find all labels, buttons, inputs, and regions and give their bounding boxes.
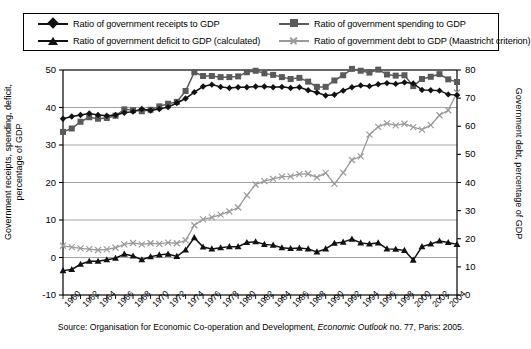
y-tick-left: 10: [30, 214, 56, 225]
y-tick-left: 50: [30, 64, 56, 75]
y-axis-title-right: Government debt, percentage of GDP: [513, 74, 524, 254]
series-diamond: [60, 79, 460, 122]
y-tick-left: 0: [30, 252, 56, 263]
y-tick-right: 0: [465, 289, 491, 300]
plot-area: Government receipts, spending, deficit, …: [0, 55, 522, 310]
source-note: Source: Organisation for Economic Co-ope…: [0, 322, 522, 332]
series-triangle: [60, 234, 461, 273]
legend-item-deficit: Ratio of government deficit to GDP (calc…: [38, 33, 260, 49]
y-tick-right: 20: [465, 233, 491, 244]
y-tick-left: -10: [30, 289, 56, 300]
y-tick-right: 30: [465, 205, 491, 216]
legend-label-debt: Ratio of government debt to GDP (Maastri…: [314, 35, 531, 47]
chart-legend: Ratio of government receipts to GDP Rati…: [23, 13, 499, 51]
legend-row-1: Ratio of government receipts to GDP Rati…: [24, 16, 498, 32]
y-tick-right: 40: [465, 177, 491, 188]
source-suffix: no. 77, Paris: 2005.: [387, 322, 464, 332]
legend-item-debt: Ratio of government debt to GDP (Maastri…: [279, 33, 531, 49]
source-italic: Economic Outlook: [318, 322, 388, 332]
legend-label-receipts: Ratio of government receipts to GDP: [73, 18, 220, 30]
y-axis-title-left: Government receipts, spending, deficit, …: [3, 72, 25, 252]
y-tick-right: 50: [465, 148, 491, 159]
y-tick-right: 60: [465, 120, 491, 131]
y-tick-right: 80: [465, 64, 491, 75]
triangle-marker-icon: [38, 35, 68, 47]
y-tick-left: 20: [30, 177, 56, 188]
legend-item-receipts: Ratio of government receipts to GDP: [38, 16, 220, 32]
y-tick-right: 70: [465, 92, 491, 103]
y-tick-right: 10: [465, 261, 491, 272]
y-tick-left: 40: [30, 102, 56, 113]
legend-label-spending: Ratio of government spending to GDP: [314, 18, 466, 30]
legend-item-spending: Ratio of government spending to GDP: [279, 16, 466, 32]
chart-canvas: [0, 55, 522, 310]
square-marker-icon: [279, 18, 309, 30]
legend-label-deficit: Ratio of government deficit to GDP (calc…: [73, 35, 260, 47]
legend-row-2: Ratio of government deficit to GDP (calc…: [24, 33, 498, 49]
y-tick-left: 30: [30, 139, 56, 150]
source-prefix: Source: Organisation for Economic Co-ope…: [58, 322, 318, 332]
cross-marker-icon: [279, 35, 309, 47]
diamond-marker-icon: [38, 18, 68, 30]
